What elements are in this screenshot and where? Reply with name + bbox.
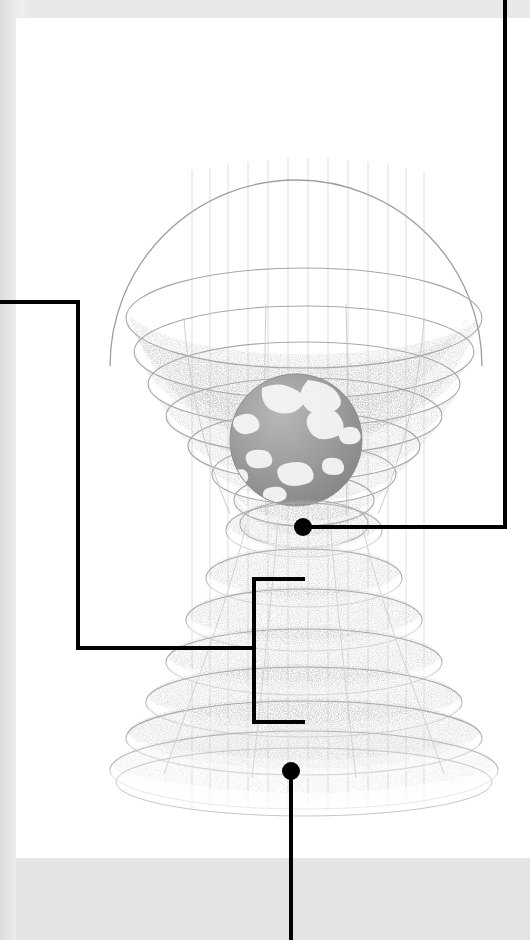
callout-target-left[interactable] <box>0 294 82 310</box>
callout-target-bracket[interactable] <box>248 572 308 728</box>
diagram-page <box>0 0 530 940</box>
page-bottom-margin <box>16 858 530 940</box>
callout-target-right[interactable] <box>294 518 312 536</box>
globe-target[interactable] <box>230 374 362 506</box>
dome-base-ring <box>110 728 498 816</box>
callout-target-bottom[interactable] <box>282 762 300 780</box>
